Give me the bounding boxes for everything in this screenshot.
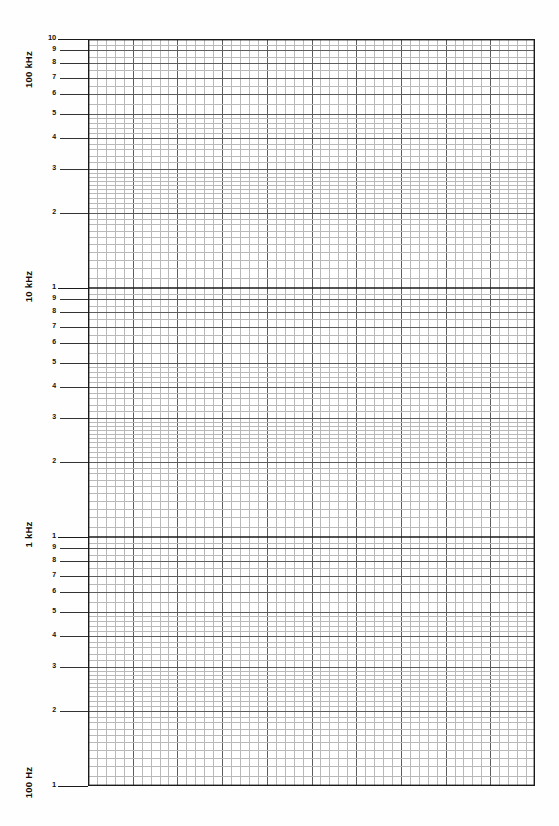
- y-axis-tick-label: 8: [52, 556, 56, 563]
- y-axis-tick-label: 1: [52, 283, 56, 290]
- y-axis-tick-line: [60, 50, 88, 51]
- y-axis-tick-label: 10: [48, 34, 56, 41]
- graph-paper-sheet: 100 kHz109876543210 kHz1987654321 kHz198…: [0, 0, 559, 826]
- y-axis-tick-label: 8: [52, 58, 56, 65]
- y-axis-tick-line: [60, 576, 88, 577]
- y-axis-tick-line: [60, 711, 88, 712]
- y-axis-tick-line: [60, 299, 88, 300]
- y-axis-tick-label: 2: [52, 208, 56, 215]
- y-axis-tick-label: 7: [52, 322, 56, 329]
- y-axis-decade-caption: 100 Hz: [23, 743, 34, 823]
- y-axis-tick-label: 8: [52, 307, 56, 314]
- y-axis-tick-label: 5: [52, 607, 56, 614]
- y-axis-tick-label: 2: [52, 706, 56, 713]
- y-axis-tick-label: 2: [52, 457, 56, 464]
- y-axis-tick-label: 6: [52, 89, 56, 96]
- y-axis-tick-label: 4: [52, 631, 56, 638]
- y-axis-tick-label: 3: [52, 413, 56, 420]
- y-axis-tick-label: 4: [52, 133, 56, 140]
- y-axis: 100 kHz109876543210 kHz1987654321 kHz198…: [0, 0, 88, 826]
- y-axis-tick-label: 9: [52, 294, 56, 301]
- y-axis-tick-line: [60, 312, 88, 313]
- y-axis-tick-line: [60, 612, 88, 613]
- y-axis-tick-line: [60, 363, 88, 364]
- y-axis-tick-label: 7: [52, 73, 56, 80]
- y-axis-tick-label: 3: [52, 662, 56, 669]
- y-axis-tick-label: 5: [52, 358, 56, 365]
- y-axis-tick-line: [60, 462, 88, 463]
- y-axis-decade-caption: 1 kHz: [23, 495, 34, 575]
- y-axis-decade-caption: 10 kHz: [23, 247, 34, 327]
- y-axis-tick-line: [60, 636, 88, 637]
- y-axis-tick-line: [58, 786, 88, 787]
- y-axis-tick-line: [58, 39, 88, 40]
- y-axis-tick-label: 4: [52, 382, 56, 389]
- y-axis-tick-line: [60, 114, 88, 115]
- y-axis-tick-label: 9: [52, 543, 56, 550]
- y-axis-tick-line: [60, 387, 88, 388]
- y-axis-decade-caption: 100 kHz: [23, 30, 34, 110]
- y-axis-tick-line: [60, 343, 88, 344]
- y-axis-tick-line: [58, 537, 88, 538]
- y-axis-tick-line: [60, 592, 88, 593]
- y-axis-tick-line: [60, 561, 88, 562]
- y-axis-tick-label: 7: [52, 571, 56, 578]
- y-axis-tick-line: [60, 213, 88, 214]
- y-axis-tick-label: 6: [52, 587, 56, 594]
- y-axis-tick-label: 3: [52, 164, 56, 171]
- y-axis-tick-label: 1: [52, 781, 56, 788]
- y-axis-tick-label: 9: [52, 45, 56, 52]
- y-axis-tick-label: 5: [52, 109, 56, 116]
- y-axis-tick-line: [60, 78, 88, 79]
- y-axis-tick-line: [58, 288, 88, 289]
- y-axis-tick-line: [60, 667, 88, 668]
- y-axis-tick-line: [60, 94, 88, 95]
- y-axis-tick-line: [60, 327, 88, 328]
- semilog-grid-canvas: [88, 39, 535, 786]
- y-axis-tick-line: [60, 138, 88, 139]
- y-axis-tick-line: [60, 169, 88, 170]
- y-axis-tick-line: [60, 548, 88, 549]
- plot-area[interactable]: [88, 39, 535, 786]
- y-axis-tick-label: 6: [52, 338, 56, 345]
- y-axis-tick-line: [60, 63, 88, 64]
- y-axis-tick-label: 1: [52, 532, 56, 539]
- y-axis-tick-line: [60, 418, 88, 419]
